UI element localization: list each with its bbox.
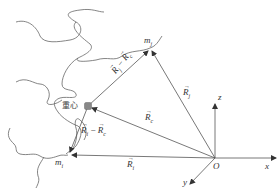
- axes: [190, 104, 276, 184]
- label-axis-y: y: [183, 178, 187, 187]
- chain-segment-bottom: [8, 128, 68, 158]
- chain-segment-top: [16, 9, 104, 41]
- label-m-j: mj: [144, 36, 152, 47]
- label-m-i: mi: [55, 158, 63, 169]
- label-axis-z: z: [218, 93, 222, 102]
- label-R-j: →Rj: [183, 88, 190, 99]
- polymer-chain: [8, 9, 162, 188]
- label-R-i: →Ri: [127, 160, 134, 171]
- chain-segment-tail: [36, 157, 44, 188]
- diagram-canvas: [0, 0, 280, 196]
- vector-R-i: [72, 155, 215, 158]
- label-axis-x: x: [265, 162, 269, 171]
- vector-R-c: [92, 108, 215, 158]
- label-origin: O: [213, 162, 220, 171]
- label-R-c: →Rc: [145, 113, 153, 124]
- label-center-of-mass: 重心: [62, 102, 78, 110]
- label-R-i-minus-R-c: →Ri − →Rc: [81, 126, 106, 137]
- axis-y: [190, 158, 215, 184]
- vector-R-j: [152, 51, 215, 158]
- center-of-mass-marker: [85, 103, 92, 110]
